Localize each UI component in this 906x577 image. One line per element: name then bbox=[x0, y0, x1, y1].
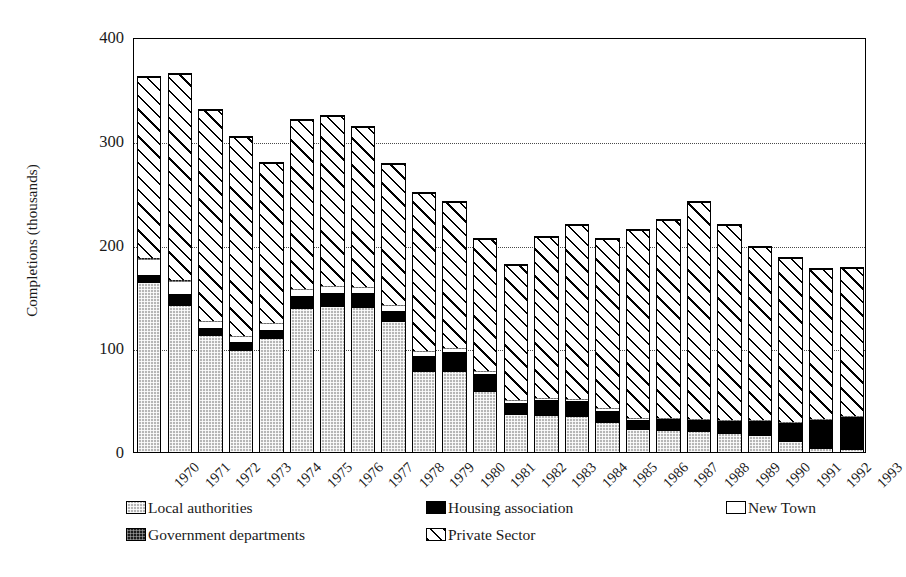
bar-segment-1972-local-authorities bbox=[198, 336, 222, 452]
bar-1988 bbox=[687, 37, 711, 452]
x-tick-label-1991: 1991 bbox=[812, 459, 845, 492]
bar-segment-1987-private-sector bbox=[656, 220, 680, 418]
bar-top-outline-1980 bbox=[442, 201, 466, 202]
bar-segment-1977-private-sector bbox=[351, 127, 375, 287]
bar-segment-1971-local-authorities bbox=[168, 306, 192, 452]
legend-label: Local authorities bbox=[148, 500, 253, 516]
bar-top-outline-1990 bbox=[748, 246, 772, 247]
legend-label: Housing association bbox=[448, 500, 573, 516]
bar-segment-1982-government-departments bbox=[504, 400, 528, 401]
bar-segment-1983-government-departments bbox=[534, 398, 558, 399]
x-tick-label-1989: 1989 bbox=[751, 459, 784, 492]
legend-entry-housing-association[interactable]: Housing association bbox=[426, 500, 573, 516]
bar-segment-1978-new-town bbox=[381, 306, 405, 311]
x-tick-label-1971: 1971 bbox=[201, 459, 234, 492]
bar-1970 bbox=[137, 37, 161, 452]
bar-segment-1986-local-authorities bbox=[626, 430, 650, 452]
x-tick-label-1975: 1975 bbox=[323, 459, 356, 492]
bar-segment-1971-private-sector bbox=[168, 74, 192, 279]
bar-segment-1991-private-sector bbox=[778, 258, 802, 422]
y-tick-label-200: 200 bbox=[60, 236, 124, 256]
bar-segment-1980-private-sector bbox=[442, 202, 466, 348]
x-tick-label-1980: 1980 bbox=[476, 459, 509, 492]
bar-1976 bbox=[320, 37, 344, 452]
bar-segment-1972-government-departments bbox=[198, 321, 222, 322]
legend-entry-government-departments[interactable]: Government departments bbox=[126, 527, 305, 543]
bar-segment-1987-local-authorities bbox=[656, 431, 680, 452]
bar-segment-1981-local-authorities bbox=[473, 392, 497, 452]
bar-1985 bbox=[595, 37, 619, 452]
bar-1980 bbox=[442, 37, 466, 452]
legend-swatch-icon bbox=[726, 501, 746, 514]
bar-segment-1975-new-town bbox=[290, 290, 314, 296]
bar-segment-1976-private-sector bbox=[320, 116, 344, 286]
bar-segment-1981-private-sector bbox=[473, 239, 497, 371]
legend-entry-new-town[interactable]: New Town bbox=[726, 500, 816, 516]
bar-segment-1976-government-departments bbox=[320, 286, 344, 287]
bar-segment-1985-private-sector bbox=[595, 239, 619, 408]
bar-segment-1993-housing-association bbox=[840, 417, 864, 450]
bar-1986 bbox=[626, 37, 650, 452]
x-tick-label-1982: 1982 bbox=[537, 459, 570, 492]
bar-segment-1975-local-authorities bbox=[290, 309, 314, 452]
bar-top-outline-1991 bbox=[778, 257, 802, 258]
legend-label: Government departments bbox=[148, 527, 305, 543]
chart-legend: Local authoritiesHousing associationNew … bbox=[126, 500, 886, 558]
bar-segment-1985-housing-association bbox=[595, 411, 619, 423]
bar-segment-1972-private-sector bbox=[198, 110, 222, 322]
bar-segment-1979-government-departments bbox=[412, 351, 436, 352]
bar-segment-1976-local-authorities bbox=[320, 307, 344, 452]
y-tick-label-0: 0 bbox=[60, 443, 124, 463]
bar-segment-1977-new-town bbox=[351, 288, 375, 293]
bar-segment-1981-housing-association bbox=[473, 374, 497, 392]
bar-segment-1991-housing-association bbox=[778, 423, 802, 442]
bar-segment-1978-government-departments bbox=[381, 305, 405, 306]
x-tick-label-1983: 1983 bbox=[568, 459, 601, 492]
bar-segment-1979-housing-association bbox=[412, 356, 436, 373]
bar-segment-1974-local-authorities bbox=[259, 339, 283, 452]
legend-swatch-icon bbox=[126, 528, 146, 541]
bar-segment-1981-new-town bbox=[473, 372, 497, 374]
bar-segment-1970-housing-association bbox=[137, 275, 161, 283]
bar-top-outline-1987 bbox=[656, 219, 680, 220]
bar-top-outline-1989 bbox=[717, 224, 741, 225]
bar-top-outline-1979 bbox=[412, 192, 436, 193]
bar-segment-1972-housing-association bbox=[198, 328, 222, 336]
bar-segment-1992-government-departments bbox=[809, 419, 833, 420]
bar-1977 bbox=[351, 37, 375, 452]
bar-segment-1979-local-authorities bbox=[412, 372, 436, 452]
bar-segment-1986-new-town bbox=[626, 419, 650, 420]
bar-segment-1993-local-authorities bbox=[840, 450, 864, 452]
bar-segment-1971-government-departments bbox=[168, 280, 192, 282]
bar-segment-1988-private-sector bbox=[687, 202, 711, 419]
bar-segment-1993-government-departments bbox=[840, 416, 864, 417]
bar-segment-1983-private-sector bbox=[534, 237, 558, 398]
bar-segment-1972-new-town bbox=[198, 322, 222, 327]
bar-top-outline-1972 bbox=[198, 109, 222, 110]
bar-segment-1980-housing-association bbox=[442, 352, 466, 372]
bar-segment-1984-local-authorities bbox=[565, 417, 589, 452]
legend-entry-local-authorities[interactable]: Local authorities bbox=[126, 500, 253, 516]
bar-segment-1985-local-authorities bbox=[595, 423, 619, 452]
bar-top-outline-1973 bbox=[229, 136, 253, 137]
bar-top-outline-1993 bbox=[840, 267, 864, 268]
legend-entry-private-sector[interactable]: Private Sector bbox=[426, 527, 535, 543]
bar-top-outline-1985 bbox=[595, 238, 619, 239]
bar-top-outline-1975 bbox=[290, 119, 314, 120]
bar-segment-1976-housing-association bbox=[320, 293, 344, 306]
bar-segment-1970-new-town bbox=[137, 260, 161, 275]
bar-segment-1980-new-town bbox=[442, 349, 466, 352]
x-tick-label-1976: 1976 bbox=[354, 459, 387, 492]
y-tick-label-400: 400 bbox=[60, 28, 124, 48]
bar-segment-1974-government-departments bbox=[259, 323, 283, 324]
bar-segment-1978-local-authorities bbox=[381, 322, 405, 452]
bar-1990 bbox=[748, 37, 772, 452]
bar-segment-1983-new-town bbox=[534, 399, 558, 400]
bar-segment-1974-housing-association bbox=[259, 330, 283, 339]
bar-segment-1986-housing-association bbox=[626, 420, 650, 430]
bar-1993 bbox=[840, 37, 864, 452]
bar-segment-1978-private-sector bbox=[381, 164, 405, 305]
bar-segment-1988-local-authorities bbox=[687, 432, 711, 452]
bar-1978 bbox=[381, 37, 405, 452]
bar-segment-1973-new-town bbox=[229, 337, 253, 342]
